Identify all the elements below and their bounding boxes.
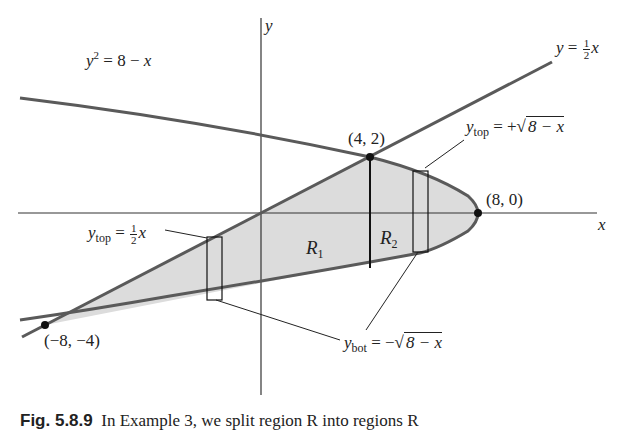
ybot-label: ybot = −√8 − x <box>344 334 442 354</box>
leader-ybot-left <box>216 300 340 340</box>
point-neg8-neg4 <box>41 321 49 329</box>
ytop-left-label: ytop = 12x <box>88 223 146 246</box>
leader-ytop-left <box>165 230 207 238</box>
figure-caption: Fig. 5.8.9 In Example 3, we split region… <box>20 411 419 431</box>
line-label: y = 12x <box>556 38 599 61</box>
leader-ybot-right <box>366 252 418 330</box>
point-4-2 <box>366 153 374 161</box>
caption-text: In Example 3, we split region R into reg… <box>101 411 418 430</box>
point-label-4-2: (4, 2) <box>348 130 385 147</box>
x-axis-label: x <box>598 216 606 233</box>
region-r2-label: R2 <box>380 228 398 250</box>
leader-ytop-right <box>425 140 464 168</box>
y-axis-label: y <box>265 17 273 34</box>
parabola-label: y2 = 8 − x <box>86 50 151 69</box>
point-label-neg8-neg4: (−8, −4) <box>44 332 100 349</box>
point-8-0 <box>474 209 482 217</box>
ytop-right-label: ytop = +√8 − x <box>466 118 564 138</box>
caption-label: Fig. 5.8.9 <box>20 411 93 430</box>
region-r1-label: R1 <box>306 238 324 260</box>
point-label-8-0: (8, 0) <box>486 191 523 208</box>
